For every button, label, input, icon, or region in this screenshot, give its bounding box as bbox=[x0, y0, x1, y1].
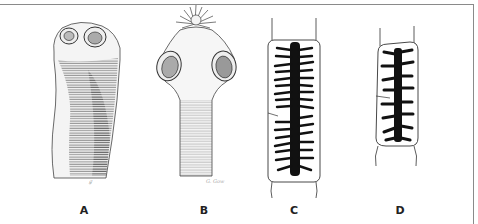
panel-label-b: B bbox=[194, 204, 214, 217]
scolex-armed-illustration bbox=[150, 0, 245, 224]
panel-a: ℊ A bbox=[40, 0, 140, 224]
proglottid-many-branches-illustration bbox=[264, 0, 324, 224]
panel-label-a: A bbox=[74, 204, 94, 217]
uterus-stem bbox=[290, 42, 300, 176]
panel-label-c: C bbox=[284, 204, 304, 217]
scolex-unarmed-illustration: ℊ bbox=[40, 0, 140, 224]
proglottid-few-branches-illustration bbox=[370, 0, 426, 224]
panel-c: C bbox=[264, 0, 324, 224]
panel-b: G. Gow B bbox=[150, 0, 245, 224]
panel-label-d: D bbox=[390, 204, 410, 217]
artist-signature: G. Gow bbox=[206, 178, 224, 184]
svg-text:ℊ: ℊ bbox=[88, 178, 93, 185]
panel-d: D bbox=[370, 0, 426, 224]
